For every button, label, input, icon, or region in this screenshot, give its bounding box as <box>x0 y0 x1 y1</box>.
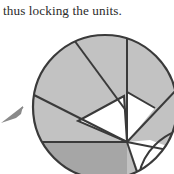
leader-arrow-icon <box>1 106 23 123</box>
iris-diaphragm-figure <box>0 0 174 174</box>
figure-page: thus locking the units. <box>0 0 174 174</box>
blade-lower-dark <box>33 142 127 174</box>
